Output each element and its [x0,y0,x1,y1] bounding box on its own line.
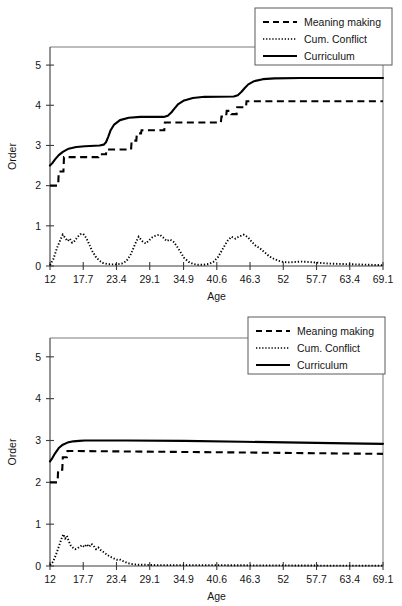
y-axis-top: 012345 [35,47,54,272]
x-tick-label: 17.7 [73,573,94,585]
y-tick-label: 5 [35,351,41,363]
legend-label: Curriculum [304,50,355,62]
y-tick-label: 2 [35,476,41,488]
y-axis-bottom: 012345 [35,338,54,572]
y-axis-title: Order [6,143,18,170]
y-tick-label: 5 [35,59,41,71]
x-tick-label: 40.6 [207,573,228,585]
series-group-bottom [50,441,383,566]
x-tick-label: 12 [44,573,56,585]
x-tick-label: 23.4 [106,573,127,585]
chart-panel-bottom: 012345 1217.723.429.134.940.646.35257.76… [0,303,402,606]
y-tick-label: 3 [35,139,41,151]
x-tick-label: 12 [44,273,56,285]
legend-top: Meaning makingCum. ConflictCurriculum [255,8,392,65]
chart-panel-top: 012345 1217.723.429.134.940.646.35257.76… [0,0,402,303]
x-tick-label: 23.4 [106,273,127,285]
legend-label: Meaning making [297,325,374,337]
legend-label: Cum. Conflict [304,33,367,45]
y-tick-label: 4 [35,392,41,404]
y-tick-label: 0 [35,560,41,572]
x-tick-label: 63.4 [340,573,361,585]
y-tick-label: 0 [35,260,41,272]
x-tick-label: 63.4 [340,273,361,285]
x-tick-label: 17.7 [73,273,94,285]
y-tick-label: 2 [35,179,41,191]
x-tick-label: 52 [277,273,289,285]
legend-label: Cum. Conflict [297,342,360,354]
series-line-cum-conflict [50,234,383,265]
x-tick-label: 46.3 [240,273,261,285]
y-tick-label: 1 [35,220,41,232]
x-tick-label: 69.1 [373,273,394,285]
legend-label: Curriculum [297,359,348,371]
y-tick-label: 3 [35,434,41,446]
x-axis-title: Age [207,590,226,602]
x-tick-label: 34.9 [173,273,194,285]
x-tick-label: 29.1 [140,573,161,585]
legend-label: Meaning making [304,16,381,28]
series-line-curriculum [50,441,383,462]
series-line-meaning-making [50,451,383,482]
x-axis-top: 1217.723.429.134.940.646.35257.763.469.1 [44,262,393,285]
series-group-top [50,78,383,265]
y-axis-title: Order [6,438,18,465]
x-tick-label: 29.1 [140,273,161,285]
chart-svg-bottom: 012345 1217.723.429.134.940.646.35257.76… [0,303,402,606]
series-line-cum-conflict [50,534,383,565]
y-tick-label: 1 [35,518,41,530]
x-tick-label: 52 [277,573,289,585]
x-axis-title: Age [207,290,226,302]
x-tick-label: 57.7 [306,273,327,285]
x-tick-label: 46.3 [240,573,261,585]
plot-frame-top [50,47,383,266]
legend-bottom: Meaning makingCum. ConflictCurriculum [248,317,385,374]
x-tick-label: 69.1 [373,573,394,585]
series-line-meaning-making [50,101,383,185]
chart-svg-top: 012345 1217.723.429.134.940.646.35257.76… [0,0,402,303]
x-tick-label: 34.9 [173,573,194,585]
y-tick-label: 4 [35,99,41,111]
x-tick-label: 40.6 [207,273,228,285]
x-tick-label: 57.7 [306,573,327,585]
